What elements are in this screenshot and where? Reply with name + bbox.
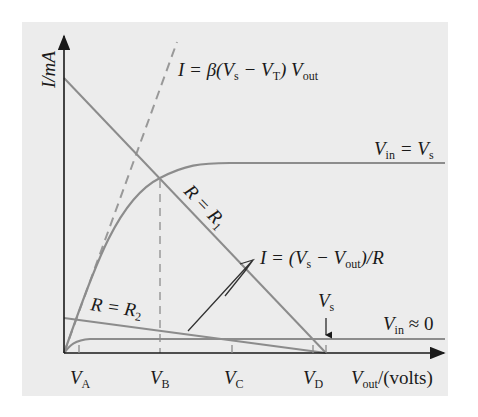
vin-low-curve [64,339,445,353]
tick-label-vb: VB [150,367,170,391]
beta-equation-label: I = β(Vs − VT) Vout [177,59,319,83]
r2-label: R = R2 [88,293,143,324]
load-line-pointer [188,260,253,331]
transistor-characteristics-diagram: I/mA I = β(Vs − VT) Vout Vin = Vs Vin ≈ … [0,0,478,417]
load-line-equation-label: I = (Vs − Vout)/R [259,247,384,271]
x-axis-label: Vout/(volts) [351,367,433,391]
vin-high-label: Vin = Vs [374,138,434,162]
tick-label-vc: VC [224,367,244,391]
vs-marker-label: Vs [318,290,335,314]
vin-low-label: Vin ≈ 0 [383,313,433,337]
y-axis-label: I/mA [38,51,59,89]
tick-label-vd: VD [303,367,324,391]
tick-label-va: VA [70,367,91,391]
